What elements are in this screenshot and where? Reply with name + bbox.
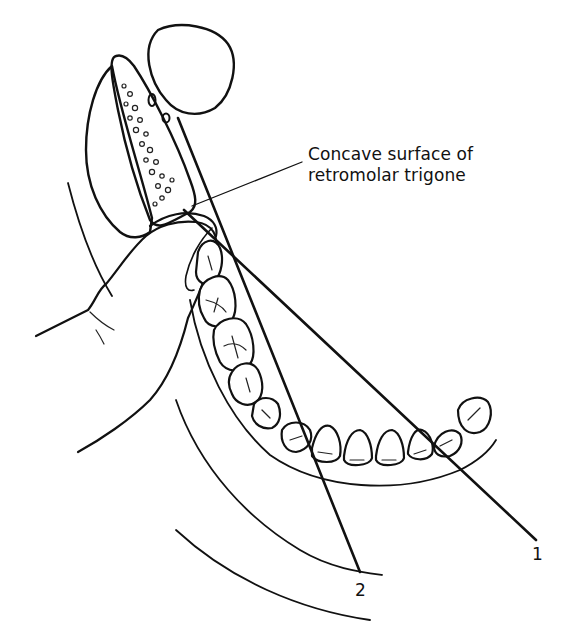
line-1-label: 1 xyxy=(532,544,543,564)
teeth-molars xyxy=(196,241,311,452)
needle-line-2 xyxy=(178,118,360,572)
callout-line-2: retromolar trigone xyxy=(308,165,473,186)
hatched-oval-bone xyxy=(148,25,233,114)
callout-leader-line xyxy=(192,162,302,206)
thumb-crease-1 xyxy=(90,312,114,330)
diagram-illustration xyxy=(0,0,566,628)
callout-line-1: Concave surface of xyxy=(308,144,473,165)
thumb-crease-2 xyxy=(96,330,104,344)
jaw-outline-lower xyxy=(176,530,370,620)
callout-label: Concave surface of retromolar trigone xyxy=(308,144,473,186)
diagram: Concave surface of retromolar trigone 1 … xyxy=(0,0,566,628)
cheek-outline xyxy=(68,183,112,296)
hatched-ramus-bone xyxy=(86,66,152,237)
teeth-incisors xyxy=(312,398,491,465)
thumb-outline xyxy=(36,222,216,452)
line-2-label: 2 xyxy=(355,580,366,600)
